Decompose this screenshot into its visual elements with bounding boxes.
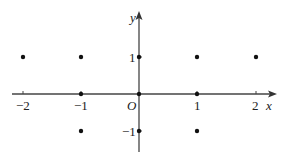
coordinate-plane: −2 −1 1 2 x 1 −1 y O [0, 0, 284, 156]
point [137, 55, 141, 59]
point [137, 129, 141, 133]
y-tick-label: 1 [129, 50, 136, 65]
point [195, 55, 199, 59]
point [21, 55, 25, 59]
point [79, 92, 83, 96]
point [195, 129, 199, 133]
point [79, 55, 83, 59]
point [79, 129, 83, 133]
y-axis-label: y [128, 10, 136, 25]
origin-label: O [127, 98, 137, 113]
y-tick-label: −1 [122, 124, 136, 139]
point [195, 92, 199, 96]
x-tick-label: −1 [74, 98, 88, 113]
point [137, 92, 141, 96]
x-tick-label: 2 [252, 98, 259, 113]
point [254, 55, 258, 59]
x-axis-label: x [265, 98, 272, 113]
x-tick-label: −2 [16, 98, 30, 113]
x-tick-label: 1 [194, 98, 201, 113]
